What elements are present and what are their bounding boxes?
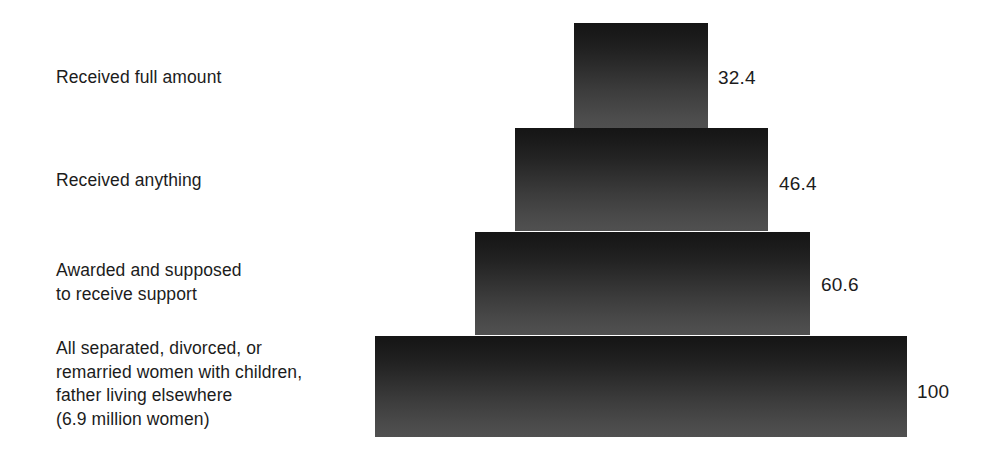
bar-received-anything <box>515 128 768 231</box>
value-label-0: 32.4 <box>718 68 756 87</box>
category-label-1: Received anything <box>56 169 202 193</box>
bar-received-full-amount <box>574 23 708 128</box>
value-label-3: 100 <box>917 382 949 401</box>
funnel-chart-figure: Received full amount32.4Received anythin… <box>0 0 999 460</box>
category-label-3: All separated, divorced, or remarried wo… <box>56 337 302 431</box>
bar-all-separated-divorced-remarried <box>375 336 907 437</box>
value-label-1: 46.4 <box>779 174 817 193</box>
category-label-2: Awarded and supposed to receive support <box>56 259 242 306</box>
bar-awarded-supposed-to-receive-support <box>475 232 810 335</box>
value-label-2: 60.6 <box>821 275 859 294</box>
category-label-0: Received full amount <box>56 66 221 90</box>
